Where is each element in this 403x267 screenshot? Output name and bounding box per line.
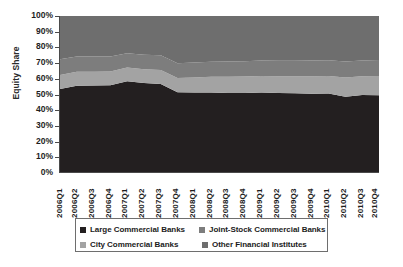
y-axis-tick-label: 60% <box>36 74 53 83</box>
y-axis-tick-label: 40% <box>36 105 53 114</box>
x-axis-tick-label: 2006Q3 <box>87 188 96 218</box>
x-axis-tick-labels: 2006Q12006Q22006Q32006Q42007Q12007Q22007… <box>59 174 379 218</box>
y-axis-tick-label: 70% <box>36 58 53 67</box>
legend-item-label: Large Commercial Banks <box>90 225 185 234</box>
x-axis-tick-label: 2006Q2 <box>70 188 79 218</box>
legend-item: Other Financial Institutes <box>202 240 323 249</box>
x-axis-tick-label: 2006Q4 <box>104 188 113 218</box>
x-axis-tick-label: 2010Q3 <box>356 188 365 218</box>
y-axis-tick-label: 100% <box>31 11 53 20</box>
chart-legend: Large Commercial Banks Joint-Stock Comme… <box>75 218 328 252</box>
y-axis-tick-label: 0% <box>41 168 53 177</box>
legend-item-label: Joint-Stock Commercial Banks <box>209 225 325 234</box>
y-axis-tick-labels: 100%90%80%70%60%50%40%30%20%10%0% <box>0 0 57 190</box>
x-axis-tick-label: 2008Q3 <box>221 188 230 218</box>
y-axis-tick-label: 20% <box>36 137 53 146</box>
legend-item-label: City Commercial Banks <box>90 240 178 249</box>
legend-row: Large Commercial Banks Joint-Stock Comme… <box>80 222 323 237</box>
area-series <box>60 81 379 172</box>
area-series <box>60 16 379 63</box>
x-axis-tick-label: 2009Q3 <box>289 188 298 218</box>
legend-item: City Commercial Banks <box>80 240 202 249</box>
legend-item: Large Commercial Banks <box>80 225 199 234</box>
x-axis-tick-label: 2010Q1 <box>322 188 331 218</box>
legend-swatch-icon <box>80 227 86 233</box>
legend-item: Joint-Stock Commercial Banks <box>199 225 323 234</box>
plot-area <box>59 16 379 173</box>
x-axis-tick-label: 2010Q2 <box>339 188 348 218</box>
chart-figure: Equity Share 100%90%80%70%60%50%40%30%20… <box>0 0 403 267</box>
x-axis-tick-label: 2009Q2 <box>272 188 281 218</box>
y-axis-tick-label: 10% <box>36 152 53 161</box>
x-axis-tick-label: 2008Q4 <box>238 188 247 218</box>
area-series-svg <box>60 16 379 172</box>
y-axis-tick-label: 30% <box>36 121 53 130</box>
x-axis-tick-label: 2008Q2 <box>205 188 214 218</box>
legend-swatch-icon <box>199 227 205 233</box>
legend-swatch-icon <box>202 242 208 248</box>
x-axis-tick-label: 2007Q3 <box>154 188 163 218</box>
legend-item-label: Other Financial Institutes <box>212 240 307 249</box>
x-axis-tick-label: 2010Q4 <box>370 188 379 218</box>
stacked-area-canvas <box>60 16 379 172</box>
y-axis-tick-label: 90% <box>36 27 53 36</box>
y-axis-tick-label: 80% <box>36 42 53 51</box>
legend-swatch-icon <box>80 242 86 248</box>
legend-row: City Commercial Banks Other Financial In… <box>80 237 323 252</box>
y-axis-tick-label: 50% <box>36 90 53 99</box>
x-axis-tick-label: 2007Q4 <box>171 188 180 218</box>
x-axis-tick-label: 2007Q1 <box>120 188 129 218</box>
x-axis-tick-label: 2009Q1 <box>255 188 264 218</box>
x-axis-tick-label: 2007Q2 <box>137 188 146 218</box>
x-axis-tick-label: 2006Q1 <box>55 188 64 218</box>
x-axis-tick-label: 2009Q4 <box>306 188 315 218</box>
x-axis-tick-label: 2008Q1 <box>188 188 197 218</box>
